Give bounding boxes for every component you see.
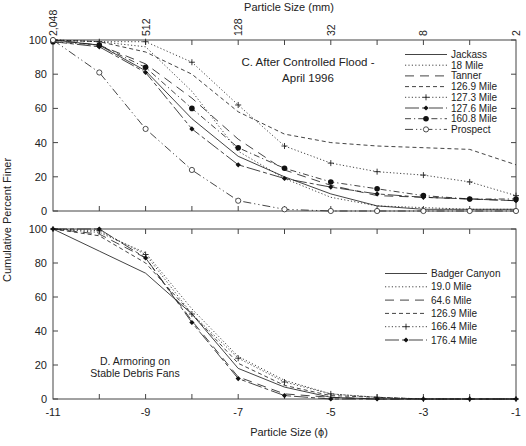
- panel-title: April 1996: [282, 72, 334, 84]
- legend-entry-label: 176.4 Mile: [431, 335, 478, 346]
- y-tick-label: 80: [35, 68, 47, 80]
- y-tick-label: 60: [35, 102, 47, 114]
- legend-entry-label: Jackass: [451, 49, 487, 60]
- y-tick-label: 60: [35, 291, 47, 303]
- y-tick-label: 20: [35, 359, 47, 371]
- legend-entry-label: 64.6 Mile: [431, 295, 472, 306]
- y-tick-label: 0: [41, 393, 47, 405]
- filled-circle-marker-icon: [97, 42, 103, 48]
- x-tick-label: -3: [419, 406, 429, 418]
- top-tick-label: 2: [510, 30, 522, 36]
- plus-marker-icon: [403, 324, 409, 330]
- legend: Badger Canyon19.0 Mile64.6 Mile126.9 Mil…: [385, 268, 501, 346]
- open-circle-marker-icon: [421, 208, 426, 213]
- legend-entry-label: Tanner: [451, 70, 482, 81]
- filled-circle-marker-icon: [328, 179, 334, 185]
- filled-circle-marker-icon: [513, 196, 519, 202]
- diamond-marker-icon: [513, 396, 518, 401]
- x-tick-label: -5: [326, 406, 336, 418]
- panel-title: D. Armoring on: [100, 355, 170, 367]
- top-tick-label: 32: [325, 24, 337, 36]
- legend-entry-label: 18 Mile: [451, 60, 484, 71]
- bottom-axis-title: Particle Size (ϕ): [250, 426, 328, 438]
- y-tick-label: 100: [29, 34, 47, 46]
- diamond-marker-icon: [421, 396, 426, 401]
- panel-title: Stable Debris Fans: [90, 367, 179, 379]
- open-circle-marker-icon: [282, 207, 287, 212]
- open-circle-marker-icon: [189, 167, 194, 172]
- plus-marker-icon: [467, 179, 473, 185]
- plus-marker-icon: [328, 160, 334, 166]
- top-tick-label: 512: [140, 18, 152, 36]
- x-tick-label: -9: [141, 406, 151, 418]
- filled-circle-marker-icon: [235, 145, 241, 151]
- x-tick-label: -1: [511, 406, 521, 418]
- diamond-marker-icon: [328, 184, 333, 189]
- open-circle-marker-icon: [236, 198, 241, 203]
- y-tick-label: 80: [35, 257, 47, 269]
- diamond-marker-icon: [375, 191, 380, 196]
- diamond-marker-icon: [282, 176, 287, 181]
- open-circle-marker-icon: [375, 208, 380, 213]
- diamond-marker-icon: [50, 226, 55, 231]
- y-tick-label: 40: [35, 325, 47, 337]
- y-tick-label: 0: [41, 205, 47, 217]
- diamond-marker-icon: [403, 337, 408, 342]
- filled-circle-marker-icon: [143, 65, 149, 71]
- open-circle-marker-icon: [513, 208, 518, 213]
- plus-marker-icon: [423, 94, 429, 100]
- open-circle-marker-icon: [97, 70, 102, 75]
- y-tick-label: 40: [35, 137, 47, 149]
- top-tick-label: 2,048: [47, 10, 59, 36]
- plus-marker-icon: [420, 172, 426, 178]
- open-circle-marker-icon: [328, 208, 333, 213]
- open-circle-marker-icon: [467, 208, 472, 213]
- legend-entry-label: 127.6 Mile: [451, 103, 498, 114]
- legend-entry-label: 126.9 Mile: [451, 81, 498, 92]
- filled-circle-marker-icon: [189, 106, 195, 112]
- panel-d-armoring-debris-fans: 020406080100Badger Canyon19.0 Mile64.6 M…: [29, 223, 519, 405]
- top-tick-label: 128: [232, 18, 244, 36]
- legend-entry-label: Badger Canyon: [431, 268, 501, 279]
- panel-c-after-controlled-flood: 020406080100Jackass18 MileTanner126.9 Mi…: [29, 34, 519, 217]
- open-circle-marker-icon: [423, 127, 428, 132]
- grain-size-chart: Particle Size (mm) 2,0485121283282 02040…: [0, 0, 526, 446]
- y-tick-label: 20: [35, 171, 47, 183]
- legend: Jackass18 MileTanner126.9 Mile127.3 Mile…: [405, 49, 498, 135]
- legend-entry-label: 160.8 Mile: [451, 113, 498, 124]
- filled-circle-marker-icon: [421, 193, 427, 199]
- legend-entry-label: Prospect: [451, 124, 491, 135]
- bottom-axis-phi-ticks: -11-9-7-5-3-1: [45, 406, 520, 418]
- panel-title: C. After Controlled Flood -: [242, 56, 375, 68]
- legend-entry-label: 126.9 Mile: [431, 308, 478, 319]
- legend-entry-label: 127.3 Mile: [451, 92, 498, 103]
- diamond-marker-icon: [423, 105, 428, 110]
- open-circle-marker-icon: [50, 37, 55, 42]
- top-axis-mm-ticks: 2,0485121283282: [47, 10, 522, 36]
- top-tick-label: 8: [417, 30, 429, 36]
- plus-marker-icon: [374, 169, 380, 175]
- x-tick-label: -11: [45, 406, 60, 418]
- top-axis-title: Particle Size (mm): [244, 1, 334, 13]
- y-axis-title: Cumulative Percent Finer: [1, 158, 13, 282]
- diamond-marker-icon: [467, 396, 472, 401]
- legend-entry-label: 166.4 Mile: [431, 321, 478, 332]
- filled-circle-marker-icon: [374, 186, 380, 192]
- filled-circle-marker-icon: [423, 116, 429, 122]
- plus-marker-icon: [235, 102, 241, 108]
- open-circle-marker-icon: [143, 126, 148, 131]
- x-tick-label: -7: [233, 406, 243, 418]
- filled-circle-marker-icon: [282, 165, 288, 171]
- y-tick-label: 100: [29, 223, 47, 235]
- plus-marker-icon: [282, 379, 288, 385]
- filled-circle-marker-icon: [467, 196, 473, 202]
- legend-entry-label: 19.0 Mile: [431, 281, 472, 292]
